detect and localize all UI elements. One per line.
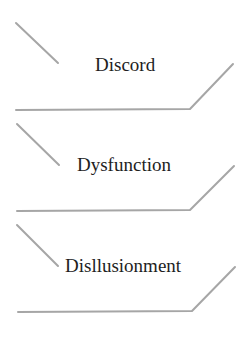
item-label-discord: Discord <box>95 55 155 74</box>
left-diagonal-line <box>17 225 58 266</box>
left-diagonal-line <box>16 23 58 63</box>
item-label-disillusionment: Disllusionment <box>65 256 181 275</box>
left-diagonal-line <box>17 124 59 165</box>
diagram: Discord Dysfunction Disllusionment <box>0 0 245 337</box>
item-label-dysfunction: Dysfunction <box>77 155 171 174</box>
